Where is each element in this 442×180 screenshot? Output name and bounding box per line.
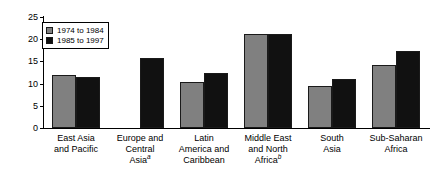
y-axis-tick-label: 10 — [28, 79, 38, 88]
y-axis-tick-label: 25 — [28, 13, 38, 22]
bar-group — [364, 17, 428, 128]
y-axis-tick-label: 15 — [28, 57, 38, 66]
bar — [372, 65, 396, 128]
x-axis-category-label-line: Latin — [173, 133, 235, 144]
bar — [268, 34, 292, 128]
footnote-marker: a — [147, 153, 151, 160]
bar-chart: 0510152025 East Asiaand PacificEurope an… — [0, 0, 442, 180]
y-axis-tick-label: 20 — [28, 35, 38, 44]
x-axis-line — [43, 128, 430, 129]
legend-item: 1974 to 1984 — [46, 26, 104, 35]
legend-item-label: 1974 to 1984 — [57, 27, 104, 35]
x-axis-category-label-line: Africa — [365, 144, 427, 155]
y-axis-tick-label: 0 — [33, 124, 38, 133]
x-axis-category-label-line: Sub-Saharan — [365, 133, 427, 144]
x-axis-category-label-line: Asiaa — [109, 155, 171, 166]
footnote-marker: b — [278, 153, 282, 160]
x-axis-category-label-line: Europe and — [109, 133, 171, 144]
x-axis-category-label: LatinAmerica andCaribbean — [172, 133, 236, 166]
bar — [396, 51, 420, 128]
bar — [332, 79, 356, 128]
x-axis-category-labels: East Asiaand PacificEurope andCentralAsi… — [44, 133, 428, 166]
x-axis-category-label-line: Caribbean — [173, 155, 235, 166]
x-axis-category-label-line: East Asia — [45, 133, 107, 144]
x-axis-category-label-line: Africab — [237, 155, 299, 166]
x-axis-category-label-line: Asia — [301, 144, 363, 155]
x-axis-category-label: Middle Eastand NorthAfricab — [236, 133, 300, 166]
x-axis-category-label-line: and North — [237, 144, 299, 155]
y-axis-tick-mark — [40, 128, 44, 129]
bar — [52, 75, 76, 128]
bar — [204, 73, 228, 128]
legend-item-label: 1985 to 1997 — [57, 37, 104, 45]
bar — [140, 58, 164, 128]
bar — [244, 34, 268, 128]
bar-group — [172, 17, 236, 128]
legend-swatch-icon — [46, 37, 53, 44]
bar — [180, 82, 204, 128]
x-axis-category-label: East Asiaand Pacific — [44, 133, 108, 166]
bar-group — [108, 17, 172, 128]
x-axis-category-label-line: South — [301, 133, 363, 144]
x-axis-category-label-line: and Pacific — [45, 144, 107, 155]
legend-item: 1985 to 1997 — [46, 36, 104, 45]
bar-group — [300, 17, 364, 128]
bar — [76, 77, 100, 128]
x-axis-category-label-line: America and — [173, 144, 235, 155]
y-axis-tick-label: 5 — [33, 101, 38, 110]
legend-swatch-icon — [46, 27, 53, 34]
x-axis-category-label: Sub-SaharanAfrica — [364, 133, 428, 166]
x-axis-category-label: Europe andCentralAsiaa — [108, 133, 172, 166]
x-axis-category-label-line: Central — [109, 144, 171, 155]
bar — [308, 86, 332, 128]
bar-group — [236, 17, 300, 128]
x-axis-category-label-line: Middle East — [237, 133, 299, 144]
x-axis-category-label: SouthAsia — [300, 133, 364, 166]
chart-legend: 1974 to 1984 1985 to 1997 — [42, 22, 109, 49]
